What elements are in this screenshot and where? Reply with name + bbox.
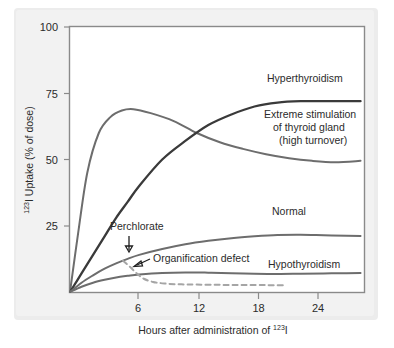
label-hyperthyroidism: Hyperthyroidism	[267, 72, 343, 84]
x-tick-label-18: 18	[252, 302, 264, 314]
y-axis-title-superscript: 123	[23, 202, 30, 214]
y-tick-label-75: 75	[46, 88, 58, 100]
y-axis-title-post: I Uptake (% of dose)	[23, 106, 35, 202]
x-tick-label-12: 12	[193, 302, 205, 314]
label-extreme-stimulation-line2: of thyroid gland	[273, 121, 345, 133]
label-normal: Normal	[272, 205, 306, 217]
y-tick-label-100: 100	[40, 21, 58, 33]
annotation-perchlorate-text: Perchlorate	[110, 220, 164, 232]
figure-container: 100 75 50 25 6 12 18 24 Hours after admi…	[0, 0, 394, 348]
y-axis-title: 123I Uptake (% of dose)	[23, 106, 35, 213]
x-axis-title-superscript: 123	[273, 324, 285, 331]
x-axis-ticks	[138, 293, 318, 300]
label-hypothyroidism: Hypothyroidism	[268, 258, 341, 270]
y-axis-ticks	[64, 27, 70, 226]
annotation-organification-defect-text: Organification defect	[153, 252, 249, 264]
x-tick-label-6: 6	[135, 302, 141, 314]
label-extreme-stimulation-line3: (high turnover)	[279, 134, 347, 146]
uptake-curve-chart: 100 75 50 25 6 12 18 24 Hours after admi…	[0, 0, 394, 348]
x-axis-title-pre: Hours after administration of	[138, 324, 273, 336]
label-extreme-stimulation-line1: Extreme stimulation	[264, 108, 356, 120]
x-tick-label-24: 24	[312, 302, 324, 314]
y-tick-label-50: 50	[46, 154, 58, 166]
x-axis-title-post: I	[285, 324, 288, 336]
x-axis-title: Hours after administration of 123I	[138, 324, 287, 336]
y-tick-label-25: 25	[46, 220, 58, 232]
